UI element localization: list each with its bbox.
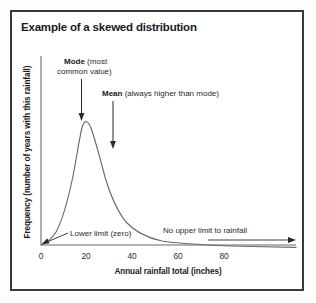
xtick-label-80: 80 xyxy=(219,251,229,261)
chart-plot-area: 0 20 40 60 80 Annual rainfall total (inc… xyxy=(0,0,316,303)
xtick-label-40: 40 xyxy=(127,251,137,261)
xtick-label-60: 60 xyxy=(173,251,183,261)
upper-limit-arrow-head xyxy=(288,237,296,243)
y-axis-title: Frequency (number of years with this rai… xyxy=(23,65,32,238)
mean-annotation: Mean (always higher than mode) xyxy=(102,89,219,98)
mode-arrow-head xyxy=(79,113,85,121)
mode-annotation-line1: Mode (most xyxy=(64,57,108,66)
x-axis-title: Annual rainfall total (inches) xyxy=(114,267,221,276)
mean-note: (always higher than mode) xyxy=(122,89,219,98)
mode-label: Mode xyxy=(64,57,85,66)
lower-limit-leader-line xyxy=(47,233,68,242)
lower-limit-annotation: Lower limit (zero) xyxy=(70,229,132,238)
xtick-label-0: 0 xyxy=(39,251,44,261)
upper-limit-annotation: No upper limit to rainfall xyxy=(163,226,247,235)
mode-annotation-line2: common value) xyxy=(57,67,112,76)
xtick-label-20: 20 xyxy=(81,251,91,261)
mean-arrow-head xyxy=(110,141,116,149)
mean-label: Mean xyxy=(102,89,123,98)
lower-limit-arrow-head xyxy=(42,238,50,244)
mode-note-part1: (most xyxy=(85,57,108,66)
figure-container: Example of a skewed distribution 0 20 40… xyxy=(0,0,316,303)
